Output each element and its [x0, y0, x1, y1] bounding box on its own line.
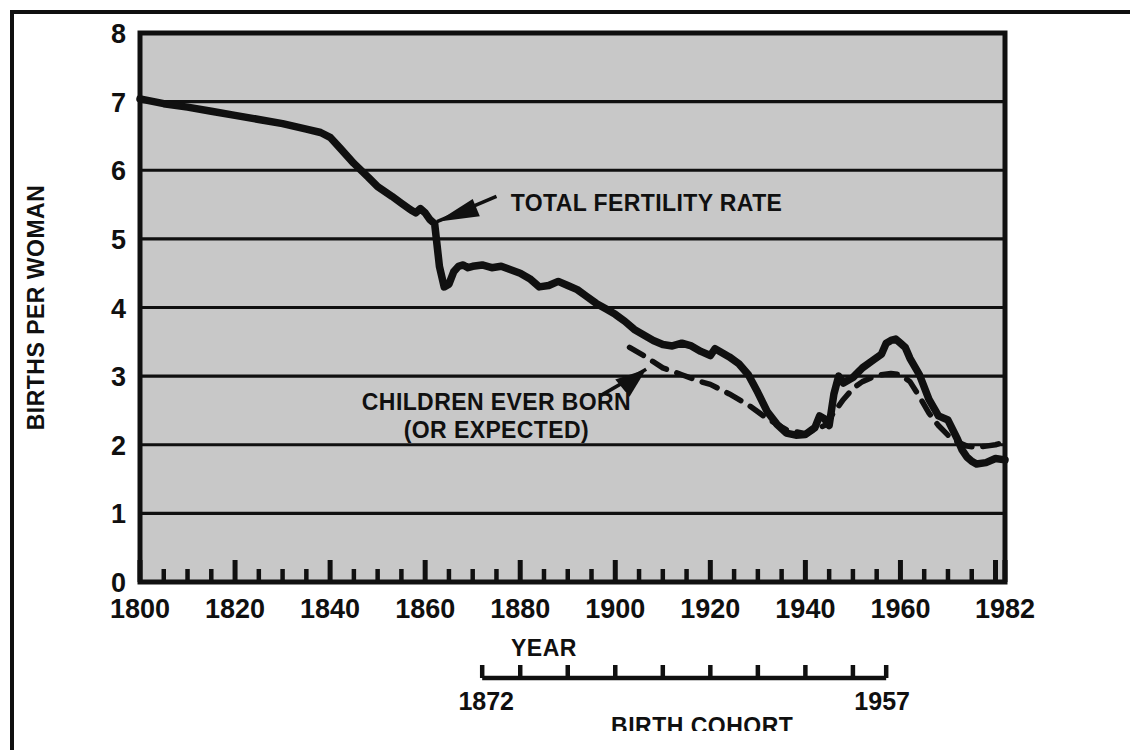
annotation-total-fertility-rate: TOTAL FERTILITY RATE: [511, 190, 783, 216]
y-axis-tick-label-8: 8: [111, 19, 126, 49]
x-axis-tick-label-1880: 1880: [490, 594, 550, 624]
y-axis-tick-label-1: 1: [111, 499, 126, 529]
x-axis-tick-label-1960: 1960: [870, 594, 930, 624]
x-axis-tick-label-1940: 1940: [775, 594, 835, 624]
cohort-start-label: 1872: [458, 687, 514, 715]
x-axis-title: YEAR: [511, 635, 577, 661]
cohort-axis-title: BIRTH COHORT: [611, 713, 793, 731]
annotation-children-ever-born-line1: CHILDREN EVER BORN: [362, 389, 631, 415]
y-axis-tick-label-7: 7: [111, 88, 126, 118]
x-axis-tick-label-1900: 1900: [585, 594, 645, 624]
y-axis-tick-label-2: 2: [111, 431, 126, 461]
x-axis-tick-label-1860: 1860: [395, 594, 455, 624]
x-axis-tick-label-1800: 1800: [110, 594, 170, 624]
annotation-children-ever-born-line2: (OR EXPECTED): [404, 417, 589, 443]
x-axis-tick-label-1840: 1840: [300, 594, 360, 624]
x-axis-tick-label-1982: 1982: [975, 594, 1035, 624]
x-axis-tick-label-1820: 1820: [205, 594, 265, 624]
x-axis-tick-label-1920: 1920: [680, 594, 740, 624]
y-axis-tick-label-3: 3: [111, 362, 126, 392]
cohort-end-label: 1957: [854, 687, 910, 715]
y-axis-title: BIRTHS PER WOMAN: [23, 185, 49, 431]
y-axis-tick-label-5: 5: [111, 225, 126, 255]
y-axis-tick-label-4: 4: [111, 294, 126, 324]
y-axis-tick-label-6: 6: [111, 156, 126, 186]
